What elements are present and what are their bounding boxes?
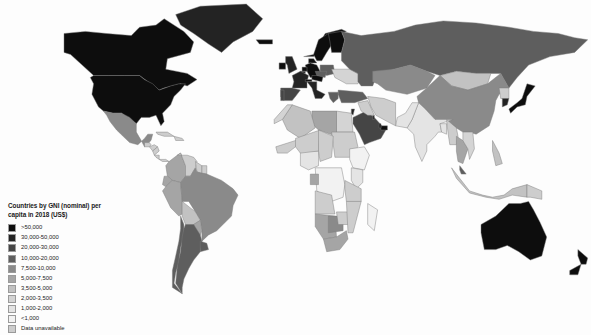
legend-label: 10,000-20,000 — [21, 256, 59, 262]
legend-entry: 2,000-3,500 — [8, 294, 132, 304]
legend-label: Data unavailable — [21, 326, 65, 332]
legend-entry: <1,000 — [8, 314, 132, 324]
country-north-korea[interactable] — [499, 88, 509, 99]
legend-label: <1,000 — [21, 316, 39, 322]
legend-swatch — [8, 325, 16, 333]
legend-entry: 5,000-7,500 — [8, 274, 132, 284]
map-legend: Countries by GNI (nominal) per capita in… — [6, 201, 132, 334]
legend-entries: >50,00030,000-50,00020,000-30,00010,000-… — [6, 223, 132, 334]
legend-label: 30,000-50,000 — [21, 235, 59, 241]
legend-entry: 10,000-20,000 — [8, 253, 132, 263]
legend-label: 2,000-3,500 — [21, 296, 52, 302]
legend-label: 1,000-2,000 — [21, 306, 52, 312]
legend-entry: 1,000-2,000 — [8, 304, 132, 314]
legend-title: Countries by GNI (nominal) per capita in… — [8, 201, 126, 219]
legend-swatch — [8, 285, 16, 293]
legend-swatch — [8, 224, 16, 232]
country-suriname[interactable] — [202, 166, 207, 174]
country-guatemala[interactable] — [145, 143, 152, 147]
country-netherlands[interactable] — [302, 67, 307, 71]
legend-entry: 3,500-5,000 — [8, 284, 132, 294]
legend-label: 5,000-7,500 — [21, 276, 52, 282]
country-kuwait[interactable] — [373, 115, 375, 119]
country-nigeria[interactable] — [300, 151, 318, 170]
country-gabon[interactable] — [310, 174, 318, 185]
legend-swatch — [8, 305, 16, 313]
legend-entry: Data unavailable — [8, 324, 132, 334]
legend-swatch — [8, 275, 16, 283]
legend-swatch — [8, 295, 16, 303]
country-ireland[interactable] — [279, 63, 286, 69]
country-switzerland[interactable] — [305, 80, 312, 82]
legend-swatch — [8, 244, 16, 252]
legend-title-line-1: Countries by GNI (nominal) per — [8, 202, 101, 209]
map-figure: Countries by GNI (nominal) per capita in… — [0, 0, 591, 335]
country-egypt[interactable] — [337, 111, 354, 132]
country-united-arab-emirates[interactable] — [381, 126, 388, 130]
legend-label: 3,500-5,000 — [21, 286, 52, 292]
legend-title-line-2: capita in 2018 (US$) — [8, 211, 67, 218]
legend-label: 7,500-10,000 — [21, 266, 55, 272]
legend-swatch — [8, 265, 16, 273]
legend-swatch — [8, 255, 16, 263]
legend-entry: >50,000 — [8, 223, 132, 233]
legend-entry: 30,000-50,000 — [8, 233, 132, 243]
legend-label: >50,000 — [21, 225, 42, 231]
legend-swatch — [8, 315, 16, 323]
legend-label: 20,000-30,000 — [21, 245, 59, 251]
country-portugal[interactable] — [281, 90, 284, 101]
legend-entry: 20,000-30,000 — [8, 243, 132, 253]
legend-swatch — [8, 234, 16, 242]
country-qatar[interactable] — [379, 124, 381, 128]
legend-entry: 7,500-10,000 — [8, 264, 132, 274]
